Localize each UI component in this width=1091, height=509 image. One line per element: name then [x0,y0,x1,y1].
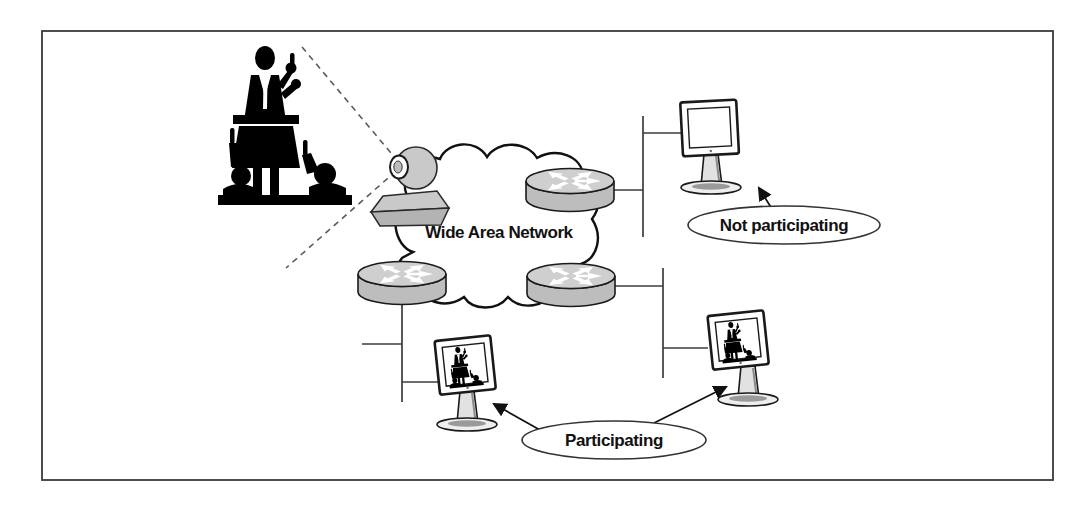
router-icon-bottom-left [358,262,446,305]
workstation-participating-left [434,335,497,431]
presenter-clipart [218,46,352,205]
camera-view-cone [286,47,396,268]
arrow-to-participating-left [494,404,540,430]
arrow-to-participating-right [652,387,726,424]
callout-not-participating: Not participating [688,206,880,244]
wan-label: Wide Area Network [425,223,573,242]
router-icon-top-right [526,169,614,212]
participating-label: Participating [565,431,663,450]
router-icon-bottom-right [527,264,615,307]
figure-page: Not participating Participating Wide Are… [0,0,1091,509]
workstation-not-participating [680,100,741,194]
not-participating-label: Not participating [720,216,848,235]
callout-participating: Participating [522,421,706,459]
network-diagram: Not participating Participating Wide Are… [0,0,1091,509]
